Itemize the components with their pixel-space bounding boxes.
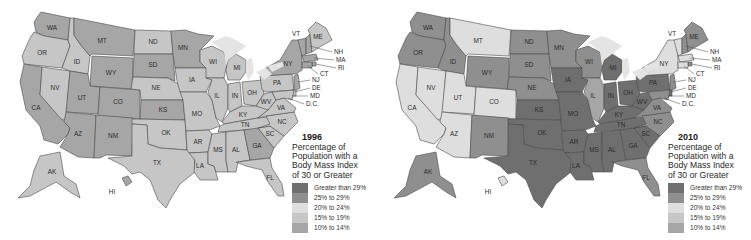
state-hi bbox=[498, 176, 508, 186]
state-label-wa: WA bbox=[423, 24, 434, 31]
state-label-al: AL bbox=[608, 146, 616, 153]
state-fl bbox=[612, 158, 660, 196]
state-label-mt: MT bbox=[97, 37, 106, 44]
legend-swatch bbox=[292, 183, 308, 193]
leader-line bbox=[316, 64, 336, 68]
legend-item: 15% to 19% bbox=[292, 213, 382, 223]
state-label-va: VA bbox=[277, 104, 286, 111]
legend-item: 25% to 29% bbox=[292, 193, 382, 203]
state-label-co: CO bbox=[489, 98, 499, 105]
state-label-md: MD bbox=[310, 92, 320, 99]
state-label-wy: WY bbox=[106, 69, 117, 76]
state-label-in: IN bbox=[608, 92, 615, 99]
state-nj bbox=[294, 74, 300, 92]
state-label-wi: WI bbox=[585, 58, 593, 65]
state-label-va: VA bbox=[653, 104, 662, 111]
legend-item: 15% to 19% bbox=[668, 213, 751, 223]
legend-swatch bbox=[292, 223, 308, 233]
state-label-ri: RI bbox=[714, 64, 721, 71]
state-label-id: ID bbox=[450, 58, 457, 65]
state-label-mt: MT bbox=[473, 37, 482, 44]
state-label-or: OR bbox=[37, 49, 47, 56]
legend-swatch bbox=[292, 213, 308, 223]
state-label-ca: CA bbox=[32, 104, 42, 111]
state-label-co: CO bbox=[113, 98, 123, 105]
leader-line bbox=[308, 66, 318, 74]
state-label-ia: IA bbox=[565, 76, 572, 83]
state-label-il: IL bbox=[590, 92, 596, 99]
legend-keys: Greater than 29% 25% to 29% 20% to 24% 1… bbox=[668, 183, 751, 233]
state-ri bbox=[312, 62, 316, 66]
state-label-az: AZ bbox=[450, 130, 458, 137]
state-label-ut: UT bbox=[78, 94, 87, 101]
state-label-vt: VT bbox=[668, 30, 676, 37]
state-label-ky: KY bbox=[239, 111, 248, 118]
state-label-ak: AK bbox=[48, 168, 57, 175]
legend-swatch bbox=[668, 213, 684, 223]
state-label-dc: D.C. bbox=[306, 100, 319, 107]
state-label-sc: SC bbox=[266, 130, 275, 137]
state-label-il: IL bbox=[214, 92, 220, 99]
legend-item: 10% to 14% bbox=[292, 223, 382, 233]
state-label-al: AL bbox=[232, 146, 240, 153]
legend-swatch bbox=[668, 223, 684, 233]
state-label-ar: AR bbox=[570, 138, 579, 145]
leader-line bbox=[298, 80, 310, 82]
state-label-ga: GA bbox=[252, 142, 262, 149]
leader-line bbox=[674, 80, 686, 82]
legend-title: Percentage of Population with a Body Mas… bbox=[292, 143, 382, 180]
state-label-mi: MI bbox=[609, 64, 616, 71]
state-ct bbox=[678, 62, 688, 68]
state-ak bbox=[394, 152, 456, 198]
state-label-ia: IA bbox=[189, 76, 196, 83]
state-ri bbox=[688, 62, 692, 66]
state-label-ar: AR bbox=[194, 138, 203, 145]
state-label-vt: VT bbox=[292, 30, 300, 37]
legend-item: 20% to 24% bbox=[668, 203, 751, 213]
legend-year: 2010 bbox=[668, 132, 751, 142]
state-label-me: ME bbox=[689, 33, 699, 40]
state-label-ms: MS bbox=[589, 146, 599, 153]
legend-keys: Greater than 29% 25% to 29% 20% to 24% 1… bbox=[292, 183, 382, 233]
state-label-tx: TX bbox=[529, 159, 538, 166]
legend-swatch bbox=[668, 183, 684, 193]
state-label-oh: OH bbox=[247, 89, 257, 96]
leader-line bbox=[692, 64, 712, 68]
state-md bbox=[272, 90, 294, 100]
state-label-me: ME bbox=[313, 33, 323, 40]
legend-item: Greater than 29% bbox=[668, 183, 751, 193]
state-label-nh: NH bbox=[710, 48, 720, 55]
state-label-mi: MI bbox=[233, 64, 240, 71]
state-label-wa: WA bbox=[47, 24, 58, 31]
great-lake bbox=[246, 58, 254, 80]
state-ak bbox=[18, 152, 80, 198]
state-label-pa: PA bbox=[273, 79, 282, 86]
state-label-sc: SC bbox=[642, 130, 651, 137]
state-label-mo: MO bbox=[568, 110, 578, 117]
state-label-tx: TX bbox=[153, 159, 162, 166]
state-label-nh: NH bbox=[334, 48, 344, 55]
state-label-tn: TN bbox=[617, 121, 626, 128]
state-label-sd: SD bbox=[525, 61, 534, 68]
state-label-ct: CT bbox=[320, 70, 329, 77]
state-label-ga: GA bbox=[628, 142, 638, 149]
state-label-de: DE bbox=[312, 84, 321, 91]
state-label-nj: NJ bbox=[312, 76, 320, 83]
state-md bbox=[648, 90, 670, 100]
state-label-nd: ND bbox=[524, 38, 534, 45]
state-label-nv: NV bbox=[51, 84, 61, 91]
state-label-ks: KS bbox=[535, 106, 544, 113]
map-panel-2010: WAORCANVIDMTWYUTCOAZNMNDSDNEKSOKTXMNIAMO… bbox=[376, 0, 751, 240]
state-fl bbox=[236, 158, 284, 196]
state-label-dc: D.C. bbox=[682, 100, 695, 107]
state-label-fl: FL bbox=[266, 174, 274, 181]
map-panel-1996: WAORCANVIDMTWYUTCOAZNMNDSDNEKSOKTXMNIAMO… bbox=[0, 0, 375, 240]
state-label-or: OR bbox=[413, 49, 423, 56]
state-label-sd: SD bbox=[149, 61, 158, 68]
state-label-pa: PA bbox=[649, 79, 658, 86]
state-label-wi: WI bbox=[209, 58, 217, 65]
state-nj bbox=[670, 74, 676, 92]
state-label-nc: NC bbox=[653, 118, 663, 125]
state-label-ri: RI bbox=[338, 64, 345, 71]
state-label-ks: KS bbox=[159, 106, 168, 113]
